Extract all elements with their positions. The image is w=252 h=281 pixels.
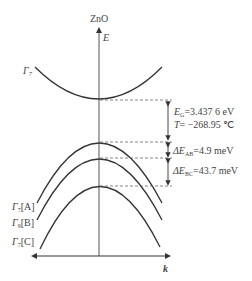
delta-e-bc-label: ΔEBC=43.7 meV [173,165,238,180]
delta-e-ab-label: ΔEAB=4.9 meV [173,145,233,160]
energy-axis-label: E [103,32,109,43]
conduction-band-label: Γ7 [23,65,32,80]
material-title: ZnO [90,13,108,24]
diagram-canvas [0,0,252,281]
valence-band-a-label: Γ7[A] [12,201,35,216]
k-axis-label: k [163,263,168,274]
valence-band-b-label: Γ9[B] [12,217,34,232]
band-structure-diagram: ZnO E k Γ7 Γ7[A] Γ9[B] Γ7[C] EG=3.437 6 … [0,0,252,281]
valence-band-c-curve [40,186,160,249]
temperature-label: T= −268.95 ℃ [174,119,234,130]
level-lines [100,100,172,186]
valence-band-c-label: Γ7[C] [12,236,34,251]
